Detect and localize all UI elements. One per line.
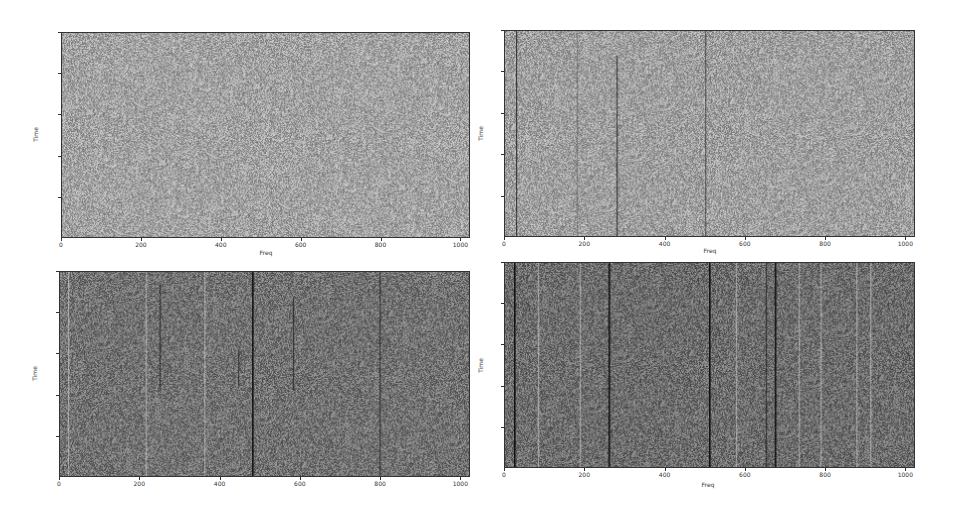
x-tick-label: 400 [659,240,670,247]
y-tick-mark [56,395,59,396]
x-tick-label: 400 [659,471,670,478]
x-tick-label: 1000 [453,480,468,487]
x-tick-label: 400 [215,241,226,248]
y-tick-mark [58,197,61,198]
x-tick-label: 800 [819,471,830,478]
x-axis-label: Freq [704,247,717,254]
y-tick-mark [501,262,504,263]
x-tick-label: 800 [819,240,830,247]
y-axis-label: Time [32,127,39,142]
y-tick-mark [56,436,59,437]
x-tick-label: 1000 [898,240,913,247]
x-tick-label: 200 [579,240,590,247]
x-tick-label: 0 [502,471,506,478]
y-tick-mark [501,344,504,345]
x-tick-label: 600 [295,241,306,248]
y-tick-mark [56,353,59,354]
y-tick-mark [501,30,504,31]
x-tick-label: 200 [134,480,145,487]
x-tick-label: 200 [135,241,146,248]
spectrogram-plot-area [504,30,915,237]
x-axis-label: Freq [260,249,273,256]
x-tick-label: 600 [739,471,750,478]
x-tick-label: 0 [59,241,63,248]
x-axis-label: Freq [702,481,715,488]
y-tick-mark [501,154,504,155]
y-tick-mark [58,73,61,74]
x-tick-label: 800 [374,480,385,487]
x-tick-label: 1000 [453,241,468,248]
y-tick-mark [501,427,504,428]
spectrogram-plot-area [61,32,470,238]
x-tick-label: 200 [579,471,590,478]
y-tick-mark [56,312,59,313]
x-tick-label: 600 [294,480,305,487]
y-axis-label: Time [477,126,484,141]
x-tick-label: 400 [214,480,225,487]
y-tick-mark [58,32,61,33]
y-tick-mark [501,71,504,72]
y-axis-label: Time [31,366,38,381]
x-tick-label: 800 [375,241,386,248]
x-tick-label: 0 [502,240,506,247]
y-tick-mark [501,386,504,387]
x-tick-label: 600 [739,240,750,247]
y-axis-label: Time [477,358,484,373]
y-tick-mark [501,303,504,304]
x-tick-label: 1000 [898,471,913,478]
x-tick-label: 0 [57,480,61,487]
y-tick-mark [58,156,61,157]
spectrogram-plot-area [59,271,470,477]
spectrogram-plot-area [504,262,915,468]
y-tick-mark [501,196,504,197]
y-tick-mark [58,114,61,115]
y-tick-mark [501,113,504,114]
y-tick-mark [56,271,59,272]
